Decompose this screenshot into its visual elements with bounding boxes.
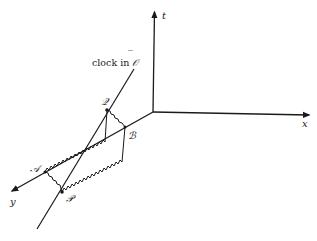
clock-caption-frame: 𝒪 (132, 57, 141, 68)
light-signal-q-to-b (107, 110, 125, 127)
t-axis-label: t (162, 10, 167, 21)
event-a-point (44, 171, 47, 174)
event-p-point (60, 190, 64, 194)
y-axis-label: y (9, 196, 16, 207)
clock-worldline (37, 69, 134, 229)
x-axis (153, 112, 309, 115)
spacetime-diagram: t x y clock in 𝒪 ‾ 𝒬 ℬ 𝒜 𝒫 (0, 0, 317, 241)
t-axis (153, 12, 155, 112)
clock-caption: clock in 𝒪 (92, 57, 141, 68)
event-b-point (124, 126, 127, 129)
x-axis-label: x (302, 118, 308, 129)
light-signal-a-to-p (45, 172, 62, 192)
event-q-point (105, 108, 109, 112)
event-b-label: ℬ (128, 130, 137, 141)
event-q-label: 𝒬 (101, 96, 110, 107)
clock-caption-prefix: clock in (92, 57, 132, 68)
event-a-label: 𝒜 (30, 163, 43, 174)
frame-bar: ‾ (128, 48, 133, 59)
event-p-label: 𝒫 (66, 193, 76, 204)
light-signal-a-to-q (45, 110, 107, 172)
